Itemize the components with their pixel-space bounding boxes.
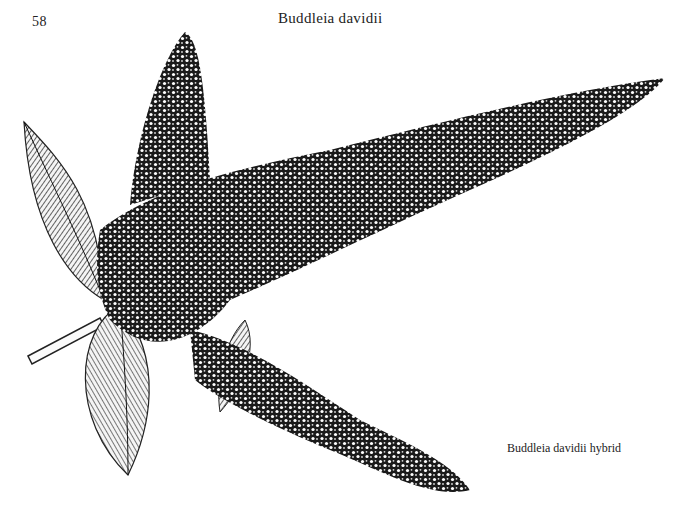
flower-spike-lower (190, 330, 470, 492)
flower-spike-upper (130, 32, 210, 205)
figure-caption: Buddleia davidii hybrid (507, 441, 621, 456)
leaf-upper-left (24, 122, 104, 300)
